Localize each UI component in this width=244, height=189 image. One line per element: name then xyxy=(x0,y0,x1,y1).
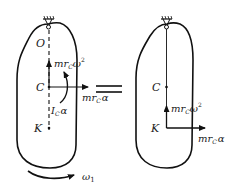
rotation-arrow xyxy=(28,171,74,178)
label-K: K xyxy=(33,122,43,135)
right-label-K: K xyxy=(150,122,160,135)
right-body-outline xyxy=(136,23,193,168)
right-label-tangential-force: mrCα xyxy=(198,133,225,145)
label-O: O xyxy=(36,37,45,50)
label-C: C xyxy=(36,81,45,94)
label-angular-velocity: ω1 xyxy=(82,171,95,184)
right-point-C-marker xyxy=(165,86,168,89)
point-K-marker xyxy=(48,127,51,130)
right-panel: C K mrCω2 mrCα xyxy=(136,16,225,168)
left-body-outline xyxy=(17,23,77,168)
right-label-centripetal-force: mrCω2 xyxy=(171,101,202,115)
point-C-marker xyxy=(48,86,51,89)
label-centripetal-force: mrCω2 xyxy=(54,56,85,70)
right-label-C: C xyxy=(152,81,161,94)
label-tangential-force: mrCα xyxy=(82,92,109,104)
left-panel: O C K mrCω2 mrCα ICα ω1 xyxy=(17,16,109,184)
physical-pendulum-diagram: O C K mrCω2 mrCα ICα ω1 xyxy=(0,0,244,189)
label-moment: ICα xyxy=(50,105,68,117)
equivalence-sign xyxy=(96,86,122,92)
